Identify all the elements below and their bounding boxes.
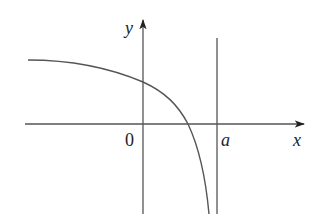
graph-diagram: y x 0 a <box>0 0 323 223</box>
origin-label: 0 <box>125 130 134 150</box>
x-axis-label: x <box>292 130 301 150</box>
asymptote-a-label: a <box>221 130 230 150</box>
y-axis-label: y <box>123 18 133 38</box>
function-curve <box>28 60 209 214</box>
